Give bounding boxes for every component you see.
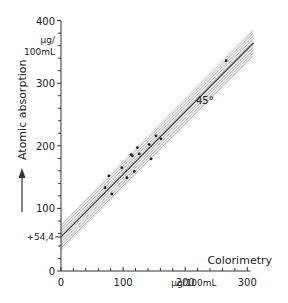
y-tick-label: 200 <box>36 141 55 152</box>
y-tick-label: 400 <box>36 16 55 27</box>
data-point <box>131 154 134 157</box>
data-point <box>155 134 158 137</box>
intercept-label: +54,4 <box>26 232 54 242</box>
x-tick-label: 100 <box>114 277 133 288</box>
y-tick-label: 0 <box>49 266 55 277</box>
y-unit-label: µg/ <box>41 35 56 45</box>
data-point <box>104 186 107 189</box>
data-point <box>138 153 141 156</box>
x-axis-title: Colorimetry <box>207 254 272 267</box>
y-arrow-icon <box>19 168 26 178</box>
data-point <box>160 138 163 141</box>
x-tick-label: 300 <box>238 277 257 288</box>
data-point <box>133 170 136 173</box>
data-point <box>148 143 151 146</box>
data-point <box>125 176 128 179</box>
data-point <box>225 59 228 62</box>
regression-line <box>61 43 254 237</box>
y-unit-label-2: 100mL <box>24 47 55 57</box>
chart: 01002003004000100200300+54,4µg/100mLµg/1… <box>0 0 288 303</box>
x-unit-label: µg/100mL <box>171 278 216 288</box>
data-point <box>107 174 110 177</box>
data-point <box>136 146 139 149</box>
y-tick-label: 100 <box>36 203 55 214</box>
x-tick-label: 0 <box>58 277 64 288</box>
data-point <box>150 158 153 161</box>
data-point <box>111 193 114 196</box>
confidence-band <box>61 29 254 251</box>
line-angle-label: 45° <box>196 95 214 106</box>
y-axis-title: Atomic absorption <box>16 60 29 160</box>
y-tick-label: 300 <box>36 78 55 89</box>
data-point <box>120 166 123 169</box>
